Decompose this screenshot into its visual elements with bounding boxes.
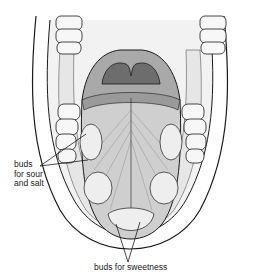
- tongue-diagram: [0, 0, 261, 277]
- upper-teeth-left: [56, 16, 82, 54]
- label-sour-salt-line3: and salt: [14, 179, 64, 189]
- label-sweetness: buds for sweetness: [94, 263, 167, 273]
- label-sour-salt: buds for sour and salt: [14, 160, 64, 189]
- upper-teeth-right: [200, 16, 226, 54]
